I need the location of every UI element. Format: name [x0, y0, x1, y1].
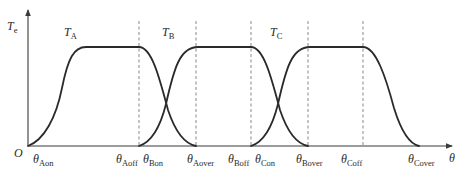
- tick-label-con: θCon: [255, 152, 276, 168]
- curve-label-tb: TB: [162, 25, 175, 41]
- tick-label-aover: θAover: [187, 152, 214, 168]
- tick-label-cover: θCover: [408, 152, 435, 168]
- tick-label-aoff: θAoff: [116, 152, 138, 168]
- curve-label-tc: TC: [270, 25, 283, 41]
- tick-label-bover: θBover: [296, 152, 323, 168]
- tick-label-coff: θCoff: [341, 152, 363, 168]
- origin-label: O: [14, 146, 23, 160]
- torque-phase-diagram: Te TA TB TC O θAon θAoff θBon θAover θBo…: [0, 0, 470, 172]
- y-axis-label: Te: [7, 19, 18, 35]
- x-axis-label: θ: [449, 151, 455, 165]
- curve-ta: [28, 47, 196, 146]
- tick-label-boff: θBoff: [228, 152, 250, 168]
- tick-label-aon: θAon: [33, 152, 54, 168]
- curve-label-ta: TA: [64, 25, 78, 41]
- tick-label-bon: θBon: [143, 152, 164, 168]
